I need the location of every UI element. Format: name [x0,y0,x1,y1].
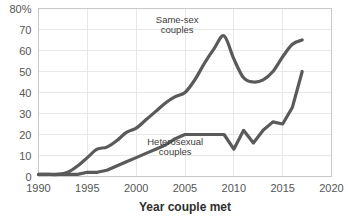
x-tick-label: 2000 [124,182,148,194]
annotation-same-sex-couples-line2: couples [161,24,194,35]
y-tick-label: 10 [19,150,31,162]
x-tick-label: 2015 [270,182,294,194]
x-tick-label: 2020 [319,182,343,194]
series-annotations: Same-sexcouplesHeterosexualcouples [147,14,203,157]
annotation-heterosexual-couples-line2: couples [159,146,192,157]
y-tick-label: 30 [19,108,31,120]
line-chart: 01020304050607080% 199019952000200520102… [0,0,348,219]
y-tick-label: 80% [9,3,31,15]
x-tick-label: 2005 [173,182,197,194]
y-tick-label: 70 [19,24,31,36]
y-tick-label: 20 [19,129,31,141]
y-tick-label: 60 [19,45,31,57]
x-axis-title: Year couple met [139,200,231,214]
chart-container: 01020304050607080% 199019952000200520102… [0,0,348,219]
x-tick-label: 1995 [75,182,99,194]
y-tick-label: 50 [19,66,31,78]
x-axis-tick-labels: 1990199520002005201020152020 [26,182,343,194]
x-tick-label: 1990 [26,182,50,194]
x-tick-label: 2010 [222,182,246,194]
y-axis-tick-labels: 01020304050607080% [9,3,31,183]
y-tick-label: 40 [19,87,31,99]
series-line-heterosexual-couples [39,72,303,175]
